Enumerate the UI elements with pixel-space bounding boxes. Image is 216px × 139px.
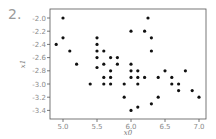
data-point bbox=[129, 69, 132, 72]
data-point bbox=[191, 89, 194, 92]
data-point bbox=[102, 63, 105, 66]
data-point bbox=[129, 76, 132, 79]
x-tick-label: 7.0 bbox=[193, 123, 204, 131]
data-point bbox=[102, 76, 105, 79]
data-point bbox=[129, 30, 132, 33]
data-point bbox=[116, 63, 119, 66]
data-point bbox=[129, 63, 132, 66]
data-point bbox=[123, 96, 126, 99]
data-point bbox=[150, 102, 153, 105]
data-point bbox=[75, 63, 78, 66]
data-point bbox=[102, 49, 105, 52]
y-tick-label: -2.2 bbox=[32, 28, 46, 36]
data-point bbox=[95, 36, 98, 39]
data-point bbox=[143, 30, 146, 33]
data-point bbox=[146, 16, 149, 19]
x-tick-label: 5.0 bbox=[57, 123, 68, 131]
y-tick-label: -3.2 bbox=[32, 94, 46, 102]
data-point bbox=[123, 82, 126, 85]
data-point bbox=[109, 76, 112, 79]
data-point bbox=[95, 43, 98, 46]
data-point bbox=[136, 76, 139, 79]
x-tick-label: 5.5 bbox=[91, 123, 102, 131]
data-point bbox=[170, 76, 173, 79]
y-tick-label: -2.8 bbox=[32, 67, 46, 75]
plot-frame bbox=[50, 9, 206, 119]
data-point bbox=[136, 106, 139, 109]
data-point bbox=[163, 69, 166, 72]
y-tick-label: -3.4 bbox=[32, 107, 46, 115]
data-point bbox=[116, 56, 119, 59]
data-point bbox=[184, 69, 187, 72]
y-tick-label: -2.6 bbox=[32, 54, 46, 62]
data-point bbox=[129, 109, 132, 112]
data-point bbox=[102, 82, 105, 85]
data-point bbox=[55, 43, 58, 46]
y-tick-label: -2.0 bbox=[32, 15, 46, 23]
data-point bbox=[150, 36, 153, 39]
data-point bbox=[61, 16, 64, 19]
data-point bbox=[157, 76, 160, 79]
data-point bbox=[109, 56, 112, 59]
x-tick-label: 6.5 bbox=[159, 123, 170, 131]
data-point bbox=[177, 89, 180, 92]
data-point bbox=[197, 96, 200, 99]
data-point bbox=[177, 82, 180, 85]
data-point bbox=[143, 76, 146, 79]
y-tick-label: -2.4 bbox=[32, 41, 46, 49]
data-point bbox=[136, 69, 139, 72]
scatter-plot: -2.0-2.2-2.4-2.6-2.8-3.0-3.2-3.4 5.05.56… bbox=[0, 0, 216, 139]
data-point bbox=[95, 56, 98, 59]
data-point bbox=[136, 82, 139, 85]
x-axis-label: x0 bbox=[124, 129, 133, 137]
y-axis-ticks: -2.0-2.2-2.4-2.6-2.8-3.0-3.2-3.4 bbox=[32, 15, 50, 115]
data-point bbox=[95, 49, 98, 52]
data-point bbox=[95, 66, 98, 69]
data-point bbox=[109, 69, 112, 72]
data-point bbox=[150, 49, 153, 52]
data-point bbox=[157, 96, 160, 99]
data-point bbox=[68, 49, 71, 52]
data-point bbox=[89, 82, 92, 85]
data-point bbox=[109, 82, 112, 85]
y-axis-label: x1 bbox=[19, 60, 27, 68]
data-point bbox=[61, 36, 64, 39]
data-point bbox=[170, 82, 173, 85]
y-tick-label: -3.0 bbox=[32, 81, 46, 89]
